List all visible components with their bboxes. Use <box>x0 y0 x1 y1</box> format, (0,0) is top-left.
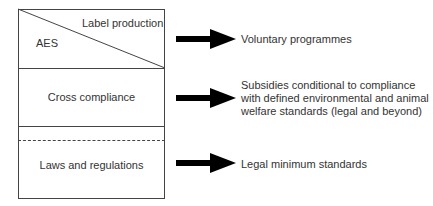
aes-label: AES <box>36 37 58 49</box>
arrow-icon <box>176 29 236 49</box>
section-divider <box>18 126 165 127</box>
voluntary-programmes-text: Voluntary programmes <box>241 33 352 46</box>
laws-regulations-label: Laws and regulations <box>18 159 165 171</box>
cross-compliance-label: Cross compliance <box>18 91 165 103</box>
section-divider <box>18 68 165 69</box>
dashed-divider <box>18 140 165 141</box>
arrow-icon <box>176 153 236 173</box>
label-production-label: Label production <box>82 17 163 29</box>
arrow-icon <box>176 88 236 108</box>
legal-minimum-text: Legal minimum standards <box>241 158 367 171</box>
subsidies-line: with defined environmental and animal <box>241 92 429 105</box>
subsidies-line: Subsidies conditional to compliance <box>241 79 429 92</box>
subsidies-text: Subsidies conditional to compliance with… <box>241 79 429 118</box>
subsidies-line: welfare standards (legal and beyond) <box>241 105 429 118</box>
